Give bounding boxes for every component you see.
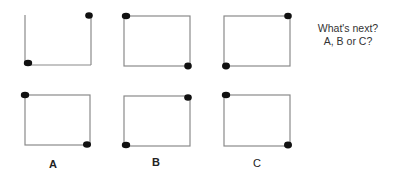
dot-bottom-right: [83, 141, 91, 148]
dot-bottom-left: [222, 63, 230, 70]
sequence-box-3: [222, 13, 292, 70]
question-text: What's next? A, B or C?: [300, 22, 396, 48]
question-line-2: A, B or C?: [300, 35, 396, 48]
dot-top-left: [122, 13, 130, 19]
box-outline: [224, 16, 290, 66]
box-outline: [124, 96, 190, 146]
box-outline: [25, 95, 90, 145]
dot-bottom-right: [284, 142, 292, 149]
box-outline: [124, 16, 190, 66]
option-a-box[interactable]: [21, 92, 91, 148]
option-c-box[interactable]: [222, 92, 292, 149]
dot-top-right: [284, 13, 292, 19]
dot-top-right: [85, 12, 93, 18]
dot-bottom-left: [24, 60, 32, 67]
dot-top-right: [184, 94, 192, 101]
option-b-box[interactable]: [122, 94, 192, 148]
box-outline: [224, 95, 290, 146]
dot-bottom-left: [122, 142, 130, 149]
option-a-label[interactable]: A: [43, 158, 63, 170]
option-c-label[interactable]: C: [247, 157, 267, 169]
sequence-box-1: [24, 12, 93, 66]
dot-top-left: [222, 92, 230, 99]
question-line-1: What's next?: [300, 22, 396, 35]
option-b-label[interactable]: B: [146, 156, 166, 168]
sequence-box-2: [122, 13, 192, 70]
dot-top-left: [21, 92, 29, 99]
dot-bottom-right: [184, 63, 192, 70]
